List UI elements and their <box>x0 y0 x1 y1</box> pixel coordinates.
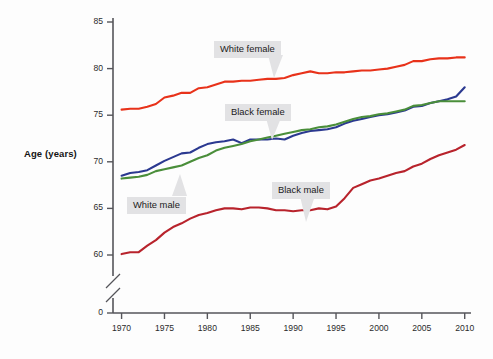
series-line-white-female <box>122 57 465 109</box>
x-axis-tick-label: 2000 <box>359 323 399 333</box>
x-axis-tick-label: 1970 <box>102 323 142 333</box>
x-axis-tick-label: 1985 <box>230 323 270 333</box>
x-axis-tick-label: 2005 <box>402 323 442 333</box>
y-axis-tick-label: 70 <box>72 156 103 166</box>
series-callout-white-female: White female <box>214 41 281 58</box>
x-axis-tick-label: 1990 <box>273 323 313 333</box>
series-callout-white-male: White male <box>127 197 186 214</box>
y-axis-tick-label: 85 <box>72 16 103 26</box>
x-axis-tick-label: 1995 <box>316 323 356 333</box>
y-axis-tick-label: 75 <box>72 109 103 119</box>
y-axis-tick-label: 80 <box>72 63 103 73</box>
callout-pointer <box>268 55 283 78</box>
callout-pointer <box>172 174 187 196</box>
series-callout-black-male: Black male <box>272 182 330 199</box>
y-axis-tick-label: 65 <box>72 202 103 212</box>
x-axis-tick-label: 1975 <box>144 323 184 333</box>
y-axis-tick-label: 0 <box>72 307 103 317</box>
x-axis-tick-label: 1980 <box>187 323 227 333</box>
y-axis-tick-label: 60 <box>72 249 103 259</box>
x-axis-tick-label: 2010 <box>445 323 485 333</box>
series-callout-black-female: Black female <box>225 104 291 121</box>
life-expectancy-line-chart: Age (years) White female Black female Wh… <box>0 0 493 359</box>
